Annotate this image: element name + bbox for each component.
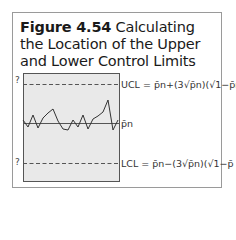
center-line-label: p̄n bbox=[121, 118, 133, 129]
ucl-formula: UCL = p̄n+(3√p̄n)(√1−p̄n) bbox=[121, 79, 236, 90]
lcl-formula: LCL = p̄n−(3√p̄n)(√1−p̄ ) bbox=[121, 158, 236, 169]
